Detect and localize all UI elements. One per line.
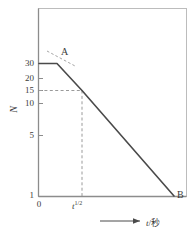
y-tick-label-20: 20 (14, 74, 34, 83)
x-tick-label-half-life: t1/2 (72, 200, 82, 211)
y-tick-label-1: 1 (14, 191, 34, 200)
y-axis-title: N (8, 99, 19, 121)
x-tick-label-origin: 0 (33, 200, 45, 209)
x-axis-arrow (100, 218, 140, 224)
y-tick-label-30: 30 (14, 59, 34, 68)
x-axis-title-unit: /秒 (149, 218, 161, 228)
point-a-label: A (61, 47, 68, 57)
y-tick-label-5: 5 (14, 131, 34, 140)
y-tick-label-15: 15 (14, 86, 34, 95)
x-axis-title: t/秒 (146, 216, 160, 229)
half-life-exponent: 1/2 (75, 200, 83, 206)
decay-chart-figure (0, 0, 194, 236)
point-b-label: B (177, 190, 184, 200)
plot-frame (39, 9, 187, 197)
